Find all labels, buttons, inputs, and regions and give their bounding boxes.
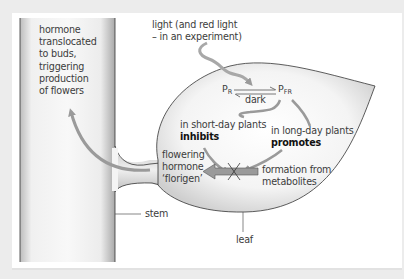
promotes-label: promotes <box>271 137 321 149</box>
pr-main: P <box>222 83 228 94</box>
pfr-sub: FR <box>284 88 292 96</box>
dark-label: dark <box>245 94 266 106</box>
leaf-label: leaf <box>236 234 253 246</box>
pr-label: PR <box>222 83 232 94</box>
pr-sub: R <box>228 88 233 96</box>
formation-label: formation from metabolites <box>262 164 331 188</box>
florigen-label: flowering hormone ‘florigen’ <box>162 149 205 186</box>
stem-label: stem <box>145 208 168 220</box>
pfr-label: PFR <box>278 83 292 94</box>
short-day-label: in short-day plants <box>180 119 266 131</box>
pfr-main: P <box>278 83 284 94</box>
inhibits-label: inhibits <box>180 131 219 143</box>
light-label: light (and red light – in an experiment) <box>152 19 242 43</box>
long-day-label: in long-day plants <box>271 125 354 137</box>
hormone-translocated-label: hormone translocated to buds, triggering… <box>39 24 97 97</box>
